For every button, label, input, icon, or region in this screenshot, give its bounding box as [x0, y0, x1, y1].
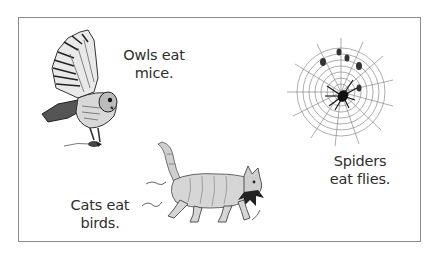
owl-caption-line-2: mice.: [118, 64, 190, 82]
cat-caption-line-1: Cats eat: [64, 196, 136, 214]
owl-caption-line-1: Owls eat: [118, 46, 190, 64]
cat-caption: Cats eat birds.: [64, 196, 136, 232]
cat-icon: [140, 136, 272, 230]
spider-caption: Spiders eat flies.: [318, 152, 402, 188]
cat-caption-line-2: birds.: [64, 214, 136, 232]
owl-icon: [38, 28, 120, 152]
spider-web-icon: [286, 36, 396, 148]
owl-caption: Owls eat mice.: [118, 46, 190, 82]
spider-caption-line-2: eat flies.: [318, 170, 402, 188]
spider-caption-line-1: Spiders: [318, 152, 402, 170]
